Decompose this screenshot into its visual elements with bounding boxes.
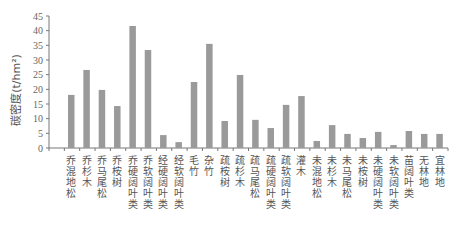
- x-tick-label: 疏杉木: [235, 154, 245, 188]
- x-tick-label: 宜林地: [435, 154, 445, 188]
- y-tick-label: 30: [33, 55, 43, 66]
- bar: [268, 128, 275, 148]
- x-tick-label: 乔马尾松: [97, 155, 107, 199]
- x-tick-label: 乔桉树: [112, 155, 122, 188]
- bar: [436, 134, 443, 148]
- x-tick-label: 无林地: [419, 155, 429, 188]
- y-tick-label: 15: [33, 99, 43, 110]
- x-tick-label: 乔硬阔叶类: [128, 155, 138, 210]
- x-tick-label: 未硬阔叶类: [373, 155, 383, 210]
- x-tick-label: 疏硬阔叶类: [266, 154, 276, 210]
- bar: [406, 131, 413, 148]
- bar: [360, 138, 367, 148]
- bar: [99, 90, 106, 148]
- y-tick-label: 45: [33, 11, 43, 22]
- bar: [344, 134, 351, 148]
- y-axis: 051015202530354045: [33, 11, 49, 154]
- bar: [390, 145, 397, 148]
- y-axis-label: 碳密度(t/hm²): [9, 54, 23, 126]
- x-tick-label: 未软阔叶类: [389, 155, 399, 210]
- bar: [83, 70, 90, 148]
- x-tick-label: 灌木: [296, 155, 306, 177]
- bar: [114, 106, 121, 148]
- bar: [206, 44, 213, 148]
- bar: [191, 82, 198, 148]
- x-tick-label: 疏桉树: [220, 154, 230, 188]
- bar: [329, 125, 336, 148]
- y-tick-label: 10: [33, 113, 43, 124]
- bars: [68, 26, 443, 148]
- bar: [160, 135, 167, 148]
- x-tick-label: 乔杉木: [82, 155, 92, 188]
- x-tick-label: 乔混地松: [66, 155, 76, 199]
- bar: [221, 121, 228, 148]
- bar: [68, 95, 75, 148]
- x-tick-label: 杂竹: [204, 155, 214, 177]
- y-tick-label: 5: [38, 128, 43, 139]
- bar: [252, 120, 259, 148]
- bar: [237, 75, 244, 148]
- x-tick-label: 经硬阔叶类: [158, 154, 168, 210]
- bar-chart: 051015202530354045 乔混地松乔杉木乔马尾松乔桉树乔硬阔叶类乔软…: [0, 0, 460, 226]
- category-labels: 乔混地松乔杉木乔马尾松乔桉树乔硬阔叶类乔软阔叶类经硬阔叶类经软阔叶类毛竹杂竹疏桉…: [66, 154, 444, 210]
- x-tick-label: 疏马尾松: [250, 154, 260, 199]
- x-tick-label: 经软阔叶类: [174, 154, 184, 210]
- y-tick-label: 40: [33, 25, 43, 36]
- y-tick-label: 20: [33, 84, 43, 95]
- y-tick-label: 25: [33, 69, 43, 80]
- x-axis: [49, 148, 448, 151]
- x-tick-label: 乔软阔叶类: [143, 155, 153, 210]
- y-tick-label: 0: [38, 143, 43, 154]
- bar: [421, 134, 428, 148]
- bar: [298, 96, 305, 148]
- x-tick-label: 毛竹: [189, 155, 199, 177]
- y-tick-label: 35: [33, 40, 43, 51]
- x-tick-label: 未杉木: [327, 155, 337, 188]
- bar: [375, 132, 382, 148]
- bar: [175, 142, 182, 148]
- bar: [314, 141, 321, 148]
- x-tick-label: 苗阔叶类: [404, 155, 414, 199]
- bar: [145, 50, 152, 148]
- x-tick-label: 疏软阔叶类: [281, 154, 291, 210]
- bar: [129, 26, 136, 148]
- bar: [283, 105, 290, 148]
- x-tick-label: 未马尾松: [342, 155, 352, 199]
- x-tick-label: 未桉树: [358, 155, 368, 188]
- x-tick-label: 未混地松: [312, 155, 322, 199]
